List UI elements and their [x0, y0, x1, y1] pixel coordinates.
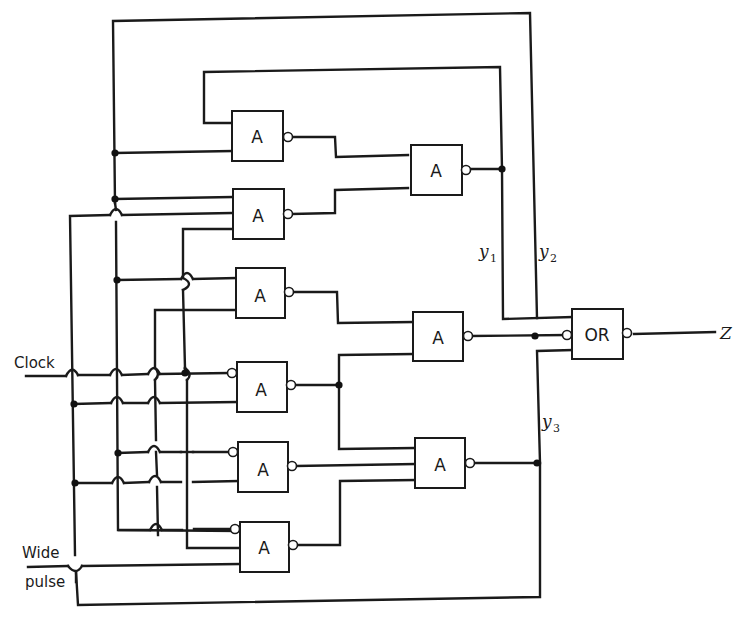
wire-g2-out	[292, 188, 408, 214]
svg-text:y: y	[541, 411, 552, 431]
gate-g9: A	[415, 438, 475, 488]
svg-text:y: y	[478, 241, 489, 261]
svg-text:A: A	[252, 206, 264, 226]
wire-y2	[470, 335, 566, 336]
wire-g6-in1	[119, 529, 231, 530]
svg-text:y: y	[538, 241, 549, 261]
svg-text:A: A	[434, 455, 446, 475]
wire-crossovers	[66, 209, 193, 571]
output-z-label: Z	[719, 323, 733, 343]
svg-text:A: A	[251, 127, 263, 147]
wire-g6-out	[299, 480, 415, 545]
gate-g6: A	[231, 522, 298, 572]
wire-g1-out	[292, 137, 408, 157]
junction-dots	[70, 149, 540, 486]
wire-g1-in2	[115, 151, 232, 153]
logic-circuit-diagram: A A A A A A A A A	[0, 0, 741, 629]
state-label-y2: y 2	[538, 241, 557, 265]
svg-text:1: 1	[490, 252, 497, 265]
gate-g8: A	[413, 312, 473, 361]
wire-y3	[474, 350, 572, 463]
gate-g1: A	[232, 111, 293, 161]
wire-z	[634, 332, 715, 334]
wire-g5-in1	[118, 452, 229, 453]
wide-pulse-label-line1: Wide	[22, 544, 59, 562]
gate-g7: A	[411, 145, 471, 195]
gate-or: OR	[563, 309, 632, 359]
wire-wide-pulse	[28, 564, 239, 567]
svg-text:A: A	[258, 538, 270, 558]
gate-g4: A	[228, 362, 296, 412]
svg-text:OR: OR	[584, 325, 609, 345]
wide-pulse-label-line2: pulse	[25, 573, 65, 591]
clock-input-label: Clock	[14, 354, 55, 372]
feedback-wire-y2-outer	[113, 13, 537, 318]
feedback-wire-y3-bottom	[76, 463, 540, 605]
svg-text:A: A	[255, 380, 267, 400]
wire-g3-out	[293, 292, 413, 323]
svg-text:A: A	[254, 286, 266, 306]
svg-text:3: 3	[553, 422, 560, 435]
wire-clock	[26, 373, 228, 376]
state-label-y3: y 3	[541, 411, 560, 435]
svg-text:A: A	[432, 328, 444, 348]
gate-g2: A	[233, 189, 293, 239]
gate-g5: A	[229, 442, 297, 492]
svg-text:A: A	[257, 460, 269, 480]
bus-mid	[155, 310, 236, 535]
wire-g4-out	[296, 354, 415, 449]
wire-g2-in1	[115, 197, 232, 199]
wire-g5-out	[296, 464, 415, 466]
wire-g5-in2	[75, 481, 238, 483]
gate-g3: A	[236, 268, 294, 318]
wire-g3-in1	[117, 278, 236, 280]
state-label-y1: y 1	[478, 241, 497, 265]
svg-text:A: A	[430, 161, 442, 181]
svg-text:2: 2	[550, 252, 557, 265]
